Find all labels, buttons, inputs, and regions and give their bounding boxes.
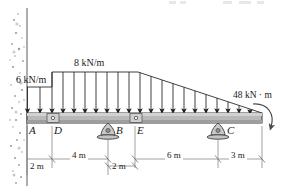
rocker-support-C bbox=[207, 123, 229, 139]
internal-hinge-D bbox=[47, 114, 59, 123]
internal-hinge-E bbox=[130, 114, 142, 123]
applied-moment-label: 48 kN · m bbox=[233, 91, 272, 101]
distributed-load-outline bbox=[27, 72, 262, 113]
dimension-label-A-D: 2 m bbox=[30, 162, 44, 171]
main-udl-label: 8 kN/m bbox=[74, 58, 104, 68]
point-label-C: C bbox=[227, 125, 234, 136]
beam-diagram: 6 kN/m 8 kN/m 48 kN · m A D B E C 2 m 4 … bbox=[0, 0, 293, 193]
point-label-A: A bbox=[29, 125, 36, 136]
dimension-label-C-end: 3 m bbox=[229, 151, 247, 160]
dimension-label-D-B: 4 m bbox=[70, 151, 88, 160]
left-udl-label: 6 kN/m bbox=[16, 75, 46, 85]
dimension-label-B-E: 2 m bbox=[112, 162, 126, 171]
point-label-B: B bbox=[116, 125, 123, 136]
load-arrows bbox=[28, 72, 251, 112]
dimension-label-E-C: 6 m bbox=[165, 151, 183, 160]
point-label-D: D bbox=[54, 125, 62, 136]
fixed-wall bbox=[9, 13, 25, 184]
point-label-E: E bbox=[137, 125, 144, 136]
beam bbox=[27, 113, 262, 123]
